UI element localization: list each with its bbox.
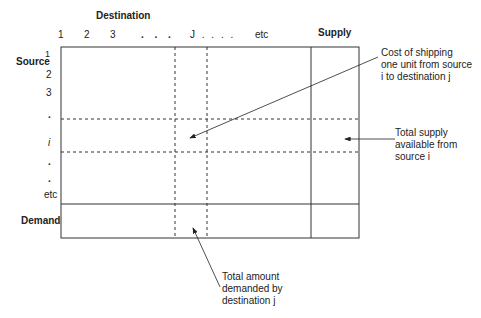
demand-annotation: Total amount demanded by destination j [222, 271, 283, 307]
supply-annotation: Total supply available from source i [395, 127, 457, 163]
cost-annotation: Cost of shipping one unit from source i … [381, 47, 472, 83]
